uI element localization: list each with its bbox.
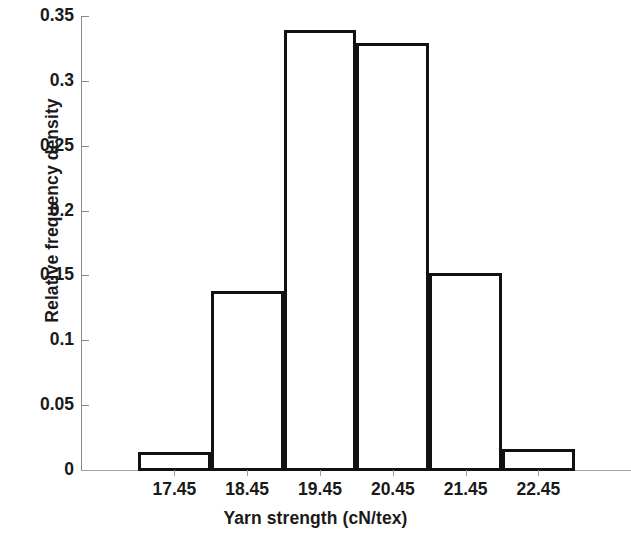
- x-tick-label: 19.45: [298, 479, 342, 500]
- histogram-bar: [138, 452, 211, 471]
- y-tick-mark: [82, 211, 89, 212]
- y-tick-mark: [82, 146, 89, 147]
- histogram-bar: [356, 43, 429, 471]
- x-tick-label: 20.45: [371, 479, 415, 500]
- x-axis-title: Yarn strength (cN/tex): [0, 508, 631, 529]
- y-tick-label: 0: [14, 461, 74, 479]
- bar-series: [81, 16, 575, 471]
- x-tick-mark: [538, 470, 539, 476]
- x-tick-label: 22.45: [516, 479, 560, 500]
- y-tick-label: 0.35: [14, 7, 74, 25]
- y-tick-label: 0.05: [14, 396, 74, 414]
- x-tick-mark: [393, 470, 394, 476]
- x-tick-mark: [466, 470, 467, 476]
- y-tick-mark: [82, 340, 89, 341]
- x-tick-mark: [247, 470, 248, 476]
- y-axis-tick-labels: 00.050.10.150.20.250.30.35: [8, 0, 74, 534]
- y-tick-mark: [82, 405, 89, 406]
- plot-area: [81, 16, 575, 470]
- y-tick-label: 0.3: [14, 72, 74, 90]
- histogram-figure: Relative frequency density 00.050.10.150…: [0, 0, 631, 534]
- y-tick-label: 0.1: [14, 332, 74, 350]
- y-tick-label: 0.2: [14, 202, 74, 220]
- y-tick-mark: [82, 275, 89, 276]
- x-tick-label: 18.45: [225, 479, 269, 500]
- histogram-bar: [284, 30, 357, 471]
- x-tick-mark: [174, 470, 175, 476]
- x-tick-label: 21.45: [444, 479, 488, 500]
- y-tick-label: 0.25: [14, 137, 74, 155]
- x-tick-mark: [320, 470, 321, 476]
- histogram-bar: [429, 273, 502, 471]
- x-tick-label: 17.45: [152, 479, 196, 500]
- y-tick-mark: [82, 16, 89, 17]
- histogram-bar: [211, 291, 284, 471]
- y-tick-mark: [82, 81, 89, 82]
- histogram-bar: [502, 449, 575, 471]
- y-tick-label: 0.15: [14, 267, 74, 285]
